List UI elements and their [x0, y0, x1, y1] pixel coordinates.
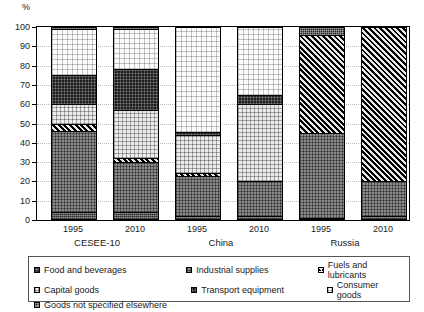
y-axis-unit-label: % [22, 2, 30, 12]
bar-segment[interactable] [299, 35, 345, 133]
x-axis-group-label: Russia [285, 237, 405, 248]
legend-swatch-icon [191, 287, 197, 293]
legend-item[interactable]: Goods not specified elsewhere [34, 300, 194, 310]
bar-segment[interactable] [113, 110, 159, 158]
bar-segment[interactable] [237, 104, 283, 181]
bar-segment[interactable] [113, 29, 159, 70]
y-tick-label: 20 [20, 176, 30, 186]
legend-label: Industrial supplies [196, 265, 268, 275]
legend-label: Goods not specified elsewhere [44, 300, 167, 310]
stacked-bar[interactable] [113, 27, 159, 220]
x-tick-year-label: 1995 [167, 224, 227, 234]
y-tick-label: 10 [20, 196, 30, 206]
stacked-bar[interactable] [175, 27, 221, 220]
y-axis-tick-labels: 1009080706050403020100 [0, 26, 34, 221]
bar-segment[interactable] [299, 27, 345, 35]
chart-container: % 1009080706050403020100 19952010CESEE-1… [0, 0, 424, 312]
legend-label: Food and beverages [44, 265, 127, 275]
bar-segment[interactable] [51, 212, 97, 220]
legend-swatch-icon [34, 302, 40, 308]
x-tick-year-label: 1995 [43, 224, 103, 234]
bar-segment[interactable] [51, 75, 97, 104]
bar-segment[interactable] [175, 27, 221, 132]
bar-segment[interactable] [361, 27, 407, 181]
legend-item[interactable]: Consumer goods [327, 280, 404, 300]
y-tick-label: 80 [20, 61, 30, 71]
legend-item[interactable]: Fuels and lubricants [318, 260, 404, 280]
stacked-bar[interactable] [237, 27, 283, 220]
bar-segment[interactable] [113, 162, 159, 212]
y-tick-label: 70 [20, 80, 30, 90]
y-tick-label: 100 [15, 22, 30, 32]
stacked-bar[interactable] [51, 27, 97, 220]
y-tick-label: 50 [20, 119, 30, 129]
bar-segment[interactable] [175, 173, 221, 176]
bar-segment[interactable] [361, 216, 407, 220]
y-tick-label: 60 [20, 99, 30, 109]
stacked-bar[interactable] [299, 27, 345, 220]
legend-item[interactable]: Transport equipment [191, 280, 327, 300]
legend-label: Transport equipment [201, 285, 284, 295]
bar-segment[interactable] [51, 27, 97, 29]
bar-segment[interactable] [237, 181, 283, 216]
bar-segment[interactable] [299, 218, 345, 220]
bar-segment[interactable] [237, 216, 283, 220]
stacked-bar[interactable] [361, 27, 407, 220]
bar-segment[interactable] [113, 158, 159, 162]
plot-area [36, 26, 410, 221]
x-axis-labels: 19952010CESEE-1019952010China19952010Rus… [36, 222, 410, 254]
bar-segment[interactable] [175, 135, 221, 173]
x-axis-group-label: CESEE-10 [37, 237, 157, 248]
legend-item[interactable]: Capital goods [34, 280, 191, 300]
y-tick-label: 30 [20, 157, 30, 167]
legend-swatch-icon [34, 267, 40, 273]
bar-segment[interactable] [299, 133, 345, 218]
x-axis-group-label: China [161, 237, 281, 248]
legend-swatch-icon [186, 267, 192, 273]
bar-segment[interactable] [175, 176, 221, 217]
x-tick-year-label: 1995 [291, 224, 351, 234]
y-tick-label: 0 [25, 215, 30, 225]
bar-segment[interactable] [51, 104, 97, 123]
bar-segment[interactable] [113, 27, 159, 29]
bar-segment[interactable] [113, 69, 159, 110]
legend-label: Capital goods [44, 285, 99, 295]
legend-swatch-icon [318, 267, 324, 273]
bar-segment[interactable] [237, 95, 283, 105]
legend-label: Consumer goods [337, 280, 404, 300]
bar-segment[interactable] [51, 131, 97, 212]
bar-segment[interactable] [361, 181, 407, 216]
bar-segment[interactable] [51, 29, 97, 75]
chart-legend: Food and beveragesIndustrial suppliesFue… [28, 256, 410, 302]
x-tick-year-label: 2010 [353, 224, 413, 234]
legend-swatch-icon [327, 287, 333, 293]
legend-item[interactable]: Food and beverages [34, 260, 186, 280]
bar-segment[interactable] [175, 216, 221, 220]
bar-segment[interactable] [51, 124, 97, 132]
y-tick-label: 90 [20, 41, 30, 51]
bar-segment[interactable] [113, 212, 159, 220]
legend-label: Fuels and lubricants [328, 260, 404, 280]
bar-segment[interactable] [237, 27, 283, 95]
legend-swatch-icon [34, 287, 40, 293]
x-tick-year-label: 2010 [229, 224, 289, 234]
x-tick-year-label: 2010 [105, 224, 165, 234]
y-tick-label: 40 [20, 138, 30, 148]
legend-item[interactable]: Industrial supplies [186, 260, 317, 280]
bar-segment[interactable] [175, 132, 221, 135]
